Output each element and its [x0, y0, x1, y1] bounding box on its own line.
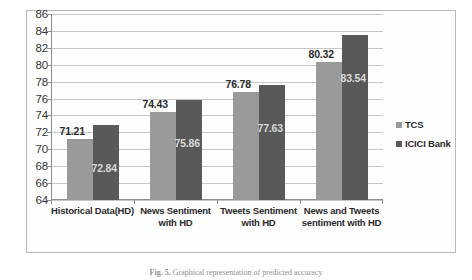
- x-axis-category-line: with HD: [211, 217, 306, 229]
- x-axis-category-line: sentiment with HD: [294, 217, 389, 229]
- y-tickmark: [47, 166, 51, 167]
- y-axis-tick-70: 70: [0, 144, 48, 155]
- bar-value-label: 75.86: [175, 138, 200, 149]
- x-axis-category-3: Tweets Sentimentwith HD: [211, 205, 306, 228]
- x-tickmark: [51, 200, 52, 204]
- caption-text: Graphical representation of predicted ac…: [173, 268, 323, 277]
- x-tickmark: [382, 200, 383, 204]
- x-axis-category-line: News Sentiment: [128, 205, 223, 217]
- bar-tcs: [67, 139, 93, 200]
- y-tickmark: [47, 14, 51, 15]
- legend-swatch-icon: [396, 122, 402, 128]
- y-axis-tick-80: 80: [0, 59, 48, 70]
- x-tickmark: [300, 200, 301, 204]
- y-tickmark: [47, 31, 51, 32]
- bar-value-label: 80.32: [309, 49, 334, 60]
- y-axis-tick-64: 64: [0, 195, 48, 206]
- x-axis-category-line: Historical Data(HD): [45, 205, 140, 217]
- y-tickmark: [47, 132, 51, 133]
- bar-group: [233, 14, 285, 200]
- plot-area: 71.2172.8474.4375.8676.7877.6380.3283.54: [51, 14, 383, 200]
- chart-legend: TCSICICI Bank: [396, 120, 458, 158]
- y-tickmark: [47, 149, 51, 150]
- legend-label: ICICI Bank: [405, 139, 451, 149]
- bar-tcs: [233, 92, 259, 200]
- y-tickmark: [47, 82, 51, 83]
- y-axis-tick-68: 68: [0, 161, 48, 172]
- legend-item-icici-bank: ICICI Bank: [396, 139, 458, 149]
- bar-icici-bank: [259, 85, 285, 200]
- bars-layer: 71.2172.8474.4375.8676.7877.6380.3283.54: [51, 14, 383, 200]
- x-axis-category-labels: Historical Data(HD)News Sentimentwith HD…: [51, 205, 383, 239]
- figure: 868482807876747270686664 71.2172.8474.43…: [0, 0, 472, 280]
- x-axis-category-line: News and Tweets: [294, 205, 389, 217]
- figure-caption: Fig. 5. Graphical representation of pred…: [0, 268, 472, 278]
- bar-tcs: [150, 112, 176, 200]
- x-axis-category-line: with HD: [128, 217, 223, 229]
- y-axis-tick-82: 82: [0, 42, 48, 53]
- y-tickmark: [47, 65, 51, 66]
- y-tickmark: [47, 115, 51, 116]
- bar-value-label: 72.84: [92, 163, 117, 174]
- bar-value-label: 71.21: [60, 126, 85, 137]
- legend-swatch-icon: [396, 141, 402, 147]
- y-axis-tick-72: 72: [0, 127, 48, 138]
- y-tickmark: [47, 183, 51, 184]
- legend-item-tcs: TCS: [396, 120, 458, 130]
- bar-value-label: 83.54: [341, 73, 366, 84]
- x-axis-category-2: News Sentimentwith HD: [128, 205, 223, 228]
- bar-group: [316, 14, 368, 200]
- bar-tcs: [316, 62, 342, 200]
- bar-value-label: 76.78: [226, 79, 251, 90]
- y-tickmark: [47, 99, 51, 100]
- y-axis-tick-66: 66: [0, 178, 48, 189]
- bar-value-label: 74.43: [143, 99, 168, 110]
- x-axis-category-4: News and Tweetssentiment with HD: [294, 205, 389, 228]
- x-tickmark: [217, 200, 218, 204]
- y-axis-tick-labels: 868482807876747270686664: [0, 14, 48, 200]
- caption-prefix: Fig. 5.: [150, 268, 171, 277]
- y-axis-tick-76: 76: [0, 93, 48, 104]
- y-tickmark: [47, 48, 51, 49]
- legend-label: TCS: [405, 120, 423, 130]
- bar-icici-bank: [176, 100, 202, 200]
- y-axis-tick-86: 86: [0, 9, 48, 20]
- x-axis-category-line: Tweets Sentiment: [211, 205, 306, 217]
- bar-icici-bank: [342, 35, 368, 200]
- y-axis-tick-74: 74: [0, 110, 48, 121]
- x-tickmark: [134, 200, 135, 204]
- y-axis-tick-84: 84: [0, 25, 48, 36]
- y-axis-tick-78: 78: [0, 76, 48, 87]
- bar-value-label: 77.63: [258, 123, 283, 134]
- x-axis-category-1: Historical Data(HD): [45, 205, 140, 217]
